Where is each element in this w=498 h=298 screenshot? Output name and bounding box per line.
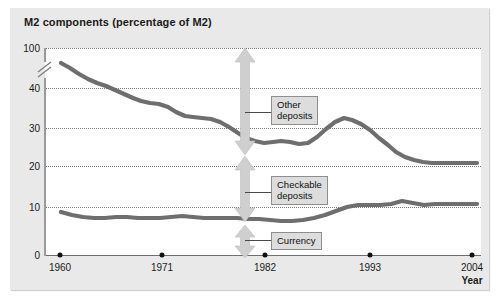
- plot-area: [45, 48, 481, 255]
- callout-checkable-deposits-line2: deposits: [277, 190, 322, 201]
- callout-checkable-deposits: Checkable deposits: [271, 176, 328, 205]
- x-tick-2004: 2004: [461, 262, 483, 273]
- callout-currency: Currency: [271, 232, 322, 250]
- y-tick-40: 40: [12, 83, 40, 94]
- gridline-100: [45, 48, 481, 49]
- x-tick-dot-1971: [160, 253, 165, 258]
- callout-checkable-deposits-line1: Checkable: [277, 179, 322, 190]
- x-tick-1993: 1993: [359, 262, 381, 273]
- x-tick-dot-2004: [470, 253, 475, 258]
- x-tick-1982: 1982: [254, 262, 276, 273]
- y-tick-30: 30: [12, 123, 40, 134]
- callout-other-deposits: Other deposits: [271, 96, 318, 125]
- x-tick-1960: 1960: [49, 262, 71, 273]
- gridline-10: [45, 207, 481, 208]
- gridline-20: [45, 166, 481, 167]
- y-tick-10: 10: [12, 202, 40, 213]
- leader-other-deposits: [245, 112, 272, 113]
- leader-currency: [245, 240, 272, 241]
- y-tick-100: 100: [12, 43, 40, 54]
- leader-checkable-deposits: [245, 192, 272, 193]
- callout-currency-line1: Currency: [277, 235, 316, 246]
- gridline-30: [45, 128, 481, 129]
- chart-figure: M2 components (percentage of M2) 100 40 …: [0, 0, 498, 298]
- callout-other-deposits-line1: Other: [277, 99, 312, 110]
- x-tick-dot-1960: [58, 253, 63, 258]
- x-axis-title: Year: [461, 275, 482, 286]
- x-tick-1971: 1971: [151, 262, 173, 273]
- y-axis-lower-segment: [44, 78, 46, 256]
- y-tick-0: 0: [12, 250, 40, 261]
- chart-title: M2 components (percentage of M2): [24, 16, 212, 28]
- callout-other-deposits-line2: deposits: [277, 110, 312, 121]
- gridline-40: [45, 88, 481, 89]
- x-tick-dot-1993: [368, 253, 373, 258]
- y-tick-20: 20: [12, 161, 40, 172]
- x-tick-dot-1982: [263, 253, 268, 258]
- y-axis-labels: 100 40 30 20 10 0: [8, 0, 40, 298]
